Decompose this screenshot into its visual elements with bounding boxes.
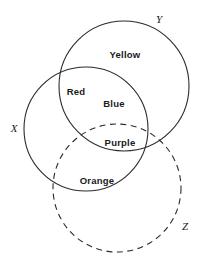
venn-circles-canvas [0,0,204,270]
set-circle-z [53,124,181,252]
venn-diagram: X Y Z Yellow Red Blue Purple Orange [0,0,204,270]
set-circle-x [24,67,148,191]
set-circle-y [59,21,189,151]
